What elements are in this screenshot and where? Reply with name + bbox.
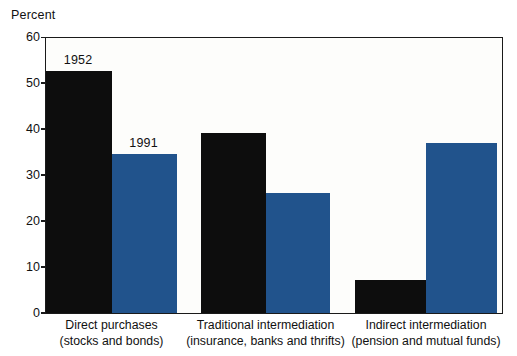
bars-layer: [45, 37, 503, 313]
y-axis-tick-label: 30: [0, 169, 40, 181]
bar-1952-group-0: [46, 71, 112, 312]
category-label-line2: (pension and mutual funds): [316, 334, 517, 350]
series-label-1991: 1991: [129, 137, 158, 150]
category-label-line1: Direct purchases: [65, 318, 157, 332]
bar-1952-group-1: [201, 133, 266, 312]
y-axis-tick-label: 60: [0, 31, 40, 43]
series-label-1952: 1952: [64, 54, 93, 67]
category-label-2: Indirect intermediation(pension and mutu…: [316, 318, 517, 349]
y-axis-title: Percent: [11, 8, 55, 22]
y-axis-tick-label: 50: [0, 77, 40, 89]
category-label-line1: Indirect intermediation: [366, 318, 487, 332]
y-axis-tick-label: 40: [0, 123, 40, 135]
bar-1991-group-0: [112, 154, 178, 312]
category-label-line1: Traditional intermediation: [197, 318, 335, 332]
bar-1991-group-2: [426, 143, 497, 313]
bar-1952-group-2: [355, 280, 426, 312]
y-axis-tick-label: 0: [0, 307, 40, 319]
y-axis-tick-label: 10: [0, 261, 40, 273]
x-axis-baseline: [45, 313, 503, 315]
x-axis-category-labels: Direct purchases(stocks and bonds)Tradit…: [45, 318, 503, 354]
bar-chart: Percent 0102030405060 19521991 Direct pu…: [0, 0, 517, 356]
y-axis-tick-label: 20: [0, 215, 40, 227]
bar-1991-group-1: [266, 193, 331, 312]
